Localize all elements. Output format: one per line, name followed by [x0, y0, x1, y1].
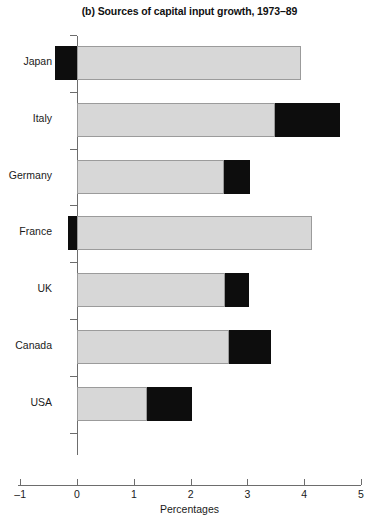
bar-segment-dark [275, 103, 340, 137]
bar-row: Italy [0, 103, 379, 137]
bar-label-japan: Japan [23, 55, 52, 67]
bar-row: Canada [0, 330, 379, 364]
bar-segment-light [77, 273, 225, 307]
bar-row: Japan [0, 46, 379, 80]
y-tick-6 [70, 376, 77, 377]
y-tick-3 [70, 205, 77, 206]
bar-row: USA [0, 387, 379, 421]
x-tick-label-5: 4 [289, 488, 319, 500]
bar-label-usa: USA [30, 396, 52, 408]
y-tick-2 [70, 149, 77, 150]
bar-segment-light [77, 216, 312, 250]
bar-label-uk: UK [37, 282, 52, 294]
bar-label-germany: Germany [9, 169, 52, 181]
x-axis-label: Percentages [0, 503, 379, 515]
bar-label-canada: Canada [15, 339, 52, 351]
x-tick-5 [304, 479, 305, 485]
bar-segment-light [77, 103, 275, 137]
x-tick-1 [77, 479, 78, 485]
bar-segment-dark [55, 46, 77, 80]
x-tick-label-3: 2 [176, 488, 206, 500]
x-tick-6 [361, 479, 362, 485]
x-tick-label-1: 0 [62, 488, 92, 500]
x-axis-line [18, 485, 361, 486]
bar-segment-dark [147, 387, 192, 421]
x-tick-label-2: 1 [119, 488, 149, 500]
y-tick-1 [70, 92, 77, 93]
x-tick-label-4: 3 [232, 488, 262, 500]
chart-title: (b) Sources of capital input growth, 197… [0, 5, 379, 17]
bar-segment-light [77, 160, 224, 194]
bar-segment-dark [68, 216, 77, 250]
bar-row: UK [0, 273, 379, 307]
x-tick-0 [20, 479, 21, 485]
y-tick-5 [70, 319, 77, 320]
bar-segment-dark [225, 273, 249, 307]
bar-segment-dark [224, 160, 250, 194]
x-tick-label-6: 5 [346, 488, 376, 500]
x-tick-2 [134, 479, 135, 485]
plot-area: –1012345 JapanItalyGermanyFranceUKCanada… [0, 30, 379, 455]
bar-segment-dark [229, 330, 272, 364]
y-tick-7 [70, 433, 77, 434]
bar-label-france: France [19, 225, 52, 237]
bar-row: Germany [0, 160, 379, 194]
x-tick-4 [247, 479, 248, 485]
bar-segment-light [77, 46, 301, 80]
x-tick-label-0: –1 [5, 488, 35, 500]
bar-label-italy: Italy [33, 112, 52, 124]
bar-segment-light [77, 330, 229, 364]
bar-segment-light [77, 387, 147, 421]
x-tick-3 [191, 479, 192, 485]
y-tick-0 [70, 35, 77, 36]
bar-row: France [0, 216, 379, 250]
y-tick-4 [70, 262, 77, 263]
